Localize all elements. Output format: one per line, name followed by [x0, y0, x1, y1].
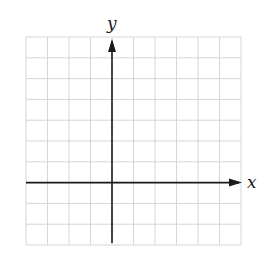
y-axis-arrow-icon — [108, 39, 116, 52]
x-axis-arrow-icon — [229, 179, 242, 187]
grid-lines — [26, 37, 241, 245]
coordinate-plane: x y — [0, 0, 263, 259]
y-axis-label: y — [106, 13, 117, 33]
x-axis-label: x — [247, 172, 257, 192]
